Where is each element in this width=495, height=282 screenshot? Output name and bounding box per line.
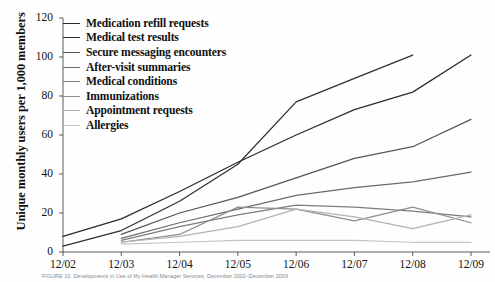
legend-item: After-visit summaries bbox=[63, 60, 226, 75]
x-tick-label: 12/09 bbox=[444, 258, 495, 270]
series-line-7 bbox=[121, 240, 471, 244]
legend-label: Appointment requests bbox=[86, 104, 193, 117]
x-tick-label: 12/02 bbox=[36, 258, 90, 270]
figure-caption: FIGURE 10. Developments in Use of My Hea… bbox=[42, 273, 288, 279]
y-tick-label: 120 bbox=[23, 11, 53, 23]
legend-label: Allergies bbox=[86, 119, 128, 132]
legend-color-swatch bbox=[63, 52, 80, 53]
legend-label: Secure messaging encounters bbox=[86, 46, 226, 59]
legend-label: Medication refill requests bbox=[86, 17, 209, 30]
legend-item: Medical conditions bbox=[63, 74, 226, 89]
y-tick-label: 20 bbox=[23, 206, 53, 218]
series-line-6 bbox=[121, 209, 471, 242]
y-tick-label: 60 bbox=[23, 128, 53, 140]
legend-item: Appointment requests bbox=[63, 104, 226, 119]
x-tick-label: 12/06 bbox=[269, 258, 323, 270]
legend-color-swatch bbox=[63, 125, 80, 126]
legend-color-swatch bbox=[63, 81, 80, 82]
legend-color-swatch bbox=[63, 67, 80, 68]
y-tick-label: 80 bbox=[23, 89, 53, 101]
legend-label: Medical test results bbox=[86, 31, 179, 44]
x-tick-label: 12/07 bbox=[327, 258, 381, 270]
legend-label: After-visit summaries bbox=[86, 61, 190, 74]
chart-legend: Medication refill requestsMedical test r… bbox=[63, 16, 226, 133]
legend-color-swatch bbox=[63, 37, 80, 38]
legend-label: Immunizations bbox=[86, 90, 159, 103]
y-tick-label: 0 bbox=[23, 245, 53, 257]
legend-item: Secure messaging encounters bbox=[63, 45, 226, 60]
y-tick-label: 100 bbox=[23, 50, 53, 62]
legend-item: Immunizations bbox=[63, 89, 226, 104]
legend-color-swatch bbox=[63, 23, 80, 24]
legend-item: Allergies bbox=[63, 118, 226, 133]
x-tick-label: 12/08 bbox=[386, 258, 440, 270]
legend-item: Medical test results bbox=[63, 31, 226, 46]
figure-container: Unique monthly users per 1,000 members 0… bbox=[0, 0, 495, 282]
x-tick-label: 12/03 bbox=[94, 258, 148, 270]
legend-color-swatch bbox=[63, 96, 80, 97]
legend-color-swatch bbox=[63, 110, 80, 111]
x-tick-label: 12/04 bbox=[153, 258, 207, 270]
x-tick-label: 12/05 bbox=[211, 258, 265, 270]
series-line-2 bbox=[121, 119, 471, 234]
legend-item: Medication refill requests bbox=[63, 16, 226, 31]
y-tick-label: 40 bbox=[23, 167, 53, 179]
legend-label: Medical conditions bbox=[86, 75, 177, 88]
